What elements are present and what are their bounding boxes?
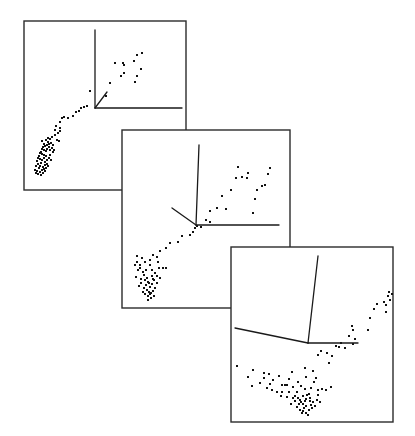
data-point	[48, 146, 50, 148]
data-point	[149, 293, 151, 295]
data-point	[53, 149, 55, 151]
data-point	[302, 395, 304, 397]
data-point	[34, 169, 36, 171]
data-point	[49, 149, 51, 151]
data-point	[300, 385, 302, 387]
data-point	[67, 117, 69, 119]
data-point	[153, 295, 155, 297]
data-point	[317, 354, 319, 356]
data-point	[387, 295, 389, 297]
data-point	[39, 152, 41, 154]
data-point	[292, 397, 294, 399]
data-point	[136, 261, 138, 263]
data-point	[221, 195, 223, 197]
data-point	[305, 376, 307, 378]
data-point	[136, 75, 138, 77]
data-point	[42, 172, 44, 174]
data-point	[43, 149, 45, 151]
data-point	[300, 401, 302, 403]
data-point	[261, 185, 263, 187]
data-point	[152, 254, 154, 256]
data-point	[264, 184, 266, 186]
data-point	[177, 241, 179, 243]
data-point	[308, 393, 310, 395]
data-point	[328, 362, 330, 364]
data-point	[134, 264, 136, 266]
data-point	[383, 301, 385, 303]
data-point	[43, 154, 45, 156]
data-point	[140, 278, 142, 280]
data-point	[310, 387, 312, 389]
data-point	[47, 165, 49, 167]
data-point	[237, 166, 239, 168]
data-point	[89, 90, 91, 92]
data-point	[44, 145, 46, 147]
data-point	[331, 355, 333, 357]
data-point	[43, 157, 45, 159]
data-point	[263, 377, 265, 379]
data-point	[41, 140, 43, 142]
data-point	[45, 167, 47, 169]
data-point	[310, 404, 312, 406]
data-point	[83, 106, 85, 108]
data-point	[162, 267, 164, 269]
data-point	[49, 154, 51, 156]
data-point	[351, 325, 353, 327]
data-point	[290, 403, 292, 405]
data-point	[63, 116, 65, 118]
data-point	[42, 146, 44, 148]
data-point	[52, 151, 54, 153]
data-point	[51, 147, 53, 149]
data-point	[151, 283, 153, 285]
data-point	[209, 210, 211, 212]
data-point	[189, 234, 191, 236]
data-point	[59, 130, 61, 132]
panel-frame	[231, 247, 393, 422]
data-point	[269, 383, 271, 385]
data-point	[315, 377, 317, 379]
data-point	[140, 68, 142, 70]
data-point	[241, 176, 243, 178]
data-point	[330, 386, 332, 388]
panels-group	[24, 21, 393, 422]
data-point	[309, 397, 311, 399]
data-point	[141, 52, 143, 54]
data-point	[369, 317, 371, 319]
data-point	[149, 259, 151, 261]
data-point	[266, 387, 268, 389]
data-point	[307, 414, 309, 416]
data-point	[51, 136, 53, 138]
data-point	[133, 60, 135, 62]
data-point	[42, 166, 44, 168]
data-point	[40, 174, 42, 176]
data-point	[230, 189, 232, 191]
data-point	[298, 403, 300, 405]
data-point	[326, 352, 328, 354]
data-point	[46, 144, 48, 146]
data-point	[200, 226, 202, 228]
data-point	[286, 384, 288, 386]
data-point	[38, 155, 40, 157]
data-point	[49, 138, 51, 140]
data-point	[78, 110, 80, 112]
data-point	[192, 231, 194, 233]
data-point	[59, 127, 61, 129]
data-point	[135, 276, 137, 278]
data-point	[278, 375, 280, 377]
data-point	[292, 386, 294, 388]
data-point	[142, 271, 144, 273]
data-point	[272, 379, 274, 381]
data-point	[41, 169, 43, 171]
data-point	[304, 400, 306, 402]
data-point	[165, 247, 167, 249]
data-point	[122, 62, 124, 64]
data-point	[316, 399, 318, 401]
scatter-panels-diagram	[0, 0, 415, 436]
data-point	[306, 394, 308, 396]
data-point	[319, 401, 321, 403]
data-point	[296, 406, 298, 408]
data-point	[148, 282, 150, 284]
data-point	[252, 212, 254, 214]
data-point	[58, 140, 60, 142]
data-point	[251, 385, 253, 387]
